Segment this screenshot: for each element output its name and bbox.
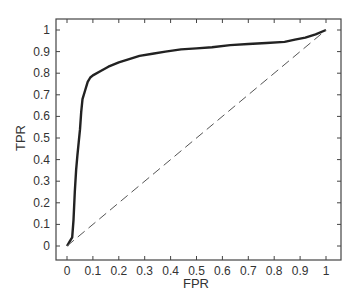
y-tick-label: 0.7 — [33, 88, 50, 102]
x-tick-label: 0 — [64, 264, 71, 278]
x-axis-label: FPR — [183, 276, 209, 291]
x-tick-label: 0.1 — [85, 264, 102, 278]
y-tick-label: 0.4 — [33, 153, 50, 167]
y-tick-label: 0.1 — [33, 217, 50, 231]
x-tick-label: 0.6 — [214, 264, 231, 278]
y-tick-label: 0.5 — [33, 131, 50, 145]
roc-chart: 00.10.20.30.40.50.60.70.80.91 00.10.20.3… — [0, 0, 353, 307]
x-tick-label: 0.8 — [266, 264, 283, 278]
x-tick-label: 0.3 — [136, 264, 153, 278]
x-tick-label: 0.7 — [240, 264, 257, 278]
y-tick-label: 0 — [43, 239, 50, 253]
y-tick-label: 1 — [43, 23, 50, 37]
axes-box — [56, 19, 341, 260]
x-tick-label: 0.2 — [110, 264, 127, 278]
y-tick-label: 0.2 — [33, 196, 50, 210]
y-tick-label: 0.8 — [33, 66, 50, 80]
plot-frame — [56, 19, 341, 260]
y-tick-label: 0.9 — [33, 45, 50, 59]
y-tick-label: 0.6 — [33, 109, 50, 123]
x-tick-label: 0.9 — [292, 264, 309, 278]
y-axis-label: TPR — [13, 125, 28, 151]
y-tick-label: 0.3 — [33, 174, 50, 188]
x-tick-label: 0.4 — [162, 264, 179, 278]
x-tick-label: 1 — [323, 264, 330, 278]
